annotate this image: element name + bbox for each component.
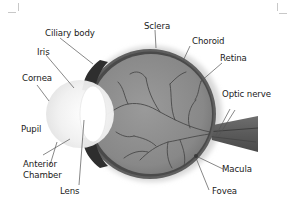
label-anterior-chamber-2: Chamber: [23, 170, 62, 180]
macula-spot: [194, 154, 198, 158]
label-macula: Macula: [222, 164, 252, 174]
label-pupil: Pupil: [21, 124, 41, 134]
label-optic-nerve: Optic nerve: [222, 89, 271, 99]
eye-diagram: Ciliary body Sclera Iris Choroid Retina …: [0, 0, 294, 216]
crop-mark-top-left-v: [18, 3, 19, 11]
label-sclera: Sclera: [144, 21, 170, 31]
crop-mark-top-right-h: [279, 13, 287, 14]
crop-mark-top-left-h: [8, 12, 16, 13]
lens-shape: [80, 86, 106, 142]
label-anterior-chamber-1: Anterior: [23, 159, 57, 169]
label-lens: Lens: [60, 186, 79, 196]
label-fovea: Fovea: [212, 186, 237, 196]
label-retina: Retina: [220, 53, 247, 63]
label-choroid: Choroid: [192, 36, 224, 46]
crop-mark-top-right-v: [277, 3, 278, 11]
label-ciliary-body: Ciliary body: [45, 28, 95, 38]
label-iris: Iris: [37, 47, 50, 57]
label-cornea: Cornea: [22, 73, 52, 83]
